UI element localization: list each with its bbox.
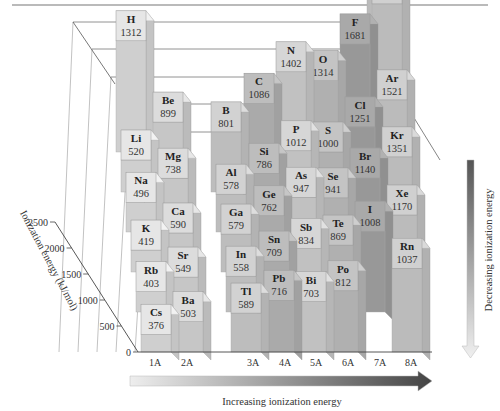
element-symbol: Kr — [390, 129, 404, 141]
element-symbol: P — [293, 123, 300, 135]
increasing-arrow: Increasing ionization energy — [130, 371, 432, 407]
bar-side — [358, 261, 366, 360]
bar-side — [203, 292, 211, 360]
element-symbol: Ga — [229, 206, 244, 218]
element-symbol: Rb — [144, 264, 158, 276]
element-symbol: Pb — [273, 272, 286, 284]
element-value: 1521 — [382, 86, 403, 97]
element-symbol: Cl — [355, 99, 366, 111]
group-label-3A: 3A — [247, 357, 260, 368]
horizontal-arrow-label: Increasing ionization energy — [222, 396, 342, 407]
element-value: 1312 — [121, 27, 142, 38]
element-symbol: As — [295, 169, 308, 181]
element-symbol: Te — [332, 217, 343, 229]
group-label-4A: 4A — [279, 357, 292, 368]
bar-Pb: Pb716 — [264, 270, 302, 360]
element-symbol: Be — [162, 94, 174, 106]
vertical-arrow-label: Decreasing ionization energy — [483, 188, 494, 312]
element-symbol: Bi — [306, 274, 316, 286]
z-tick-label: 500 — [99, 321, 114, 332]
element-symbol: Al — [226, 166, 237, 178]
element-value: 812 — [335, 277, 351, 288]
element-value: 1037 — [397, 254, 418, 265]
element-symbol: Sn — [268, 233, 280, 245]
bar-column — [231, 313, 261, 352]
decreasing-arrow: Decreasing ionization energy — [462, 160, 494, 358]
element-value: 503 — [180, 308, 196, 319]
element-value: 419 — [138, 236, 154, 247]
bar-side — [326, 272, 334, 360]
element-value: 496 — [133, 188, 149, 199]
bar-side — [294, 270, 302, 360]
element-value: 786 — [256, 159, 272, 170]
element-symbol: F — [352, 16, 359, 28]
element-value: 1012 — [286, 137, 307, 148]
bars-layer: He2372H1312Ne2081F1681O1314N1402C1086B80… — [116, 0, 430, 360]
element-symbol: Si — [259, 145, 268, 157]
element-value: 579 — [228, 220, 244, 231]
bar-side — [261, 283, 269, 360]
element-symbol: Se — [328, 170, 339, 182]
element-value: 716 — [271, 286, 287, 297]
element-value: 1086 — [249, 89, 270, 100]
element-symbol: Mg — [165, 150, 181, 162]
element-value: 376 — [148, 320, 164, 331]
chart-svg: He2372H1312Ne2081F1681O1314N1402C1086B80… — [0, 0, 500, 411]
element-value: 1251 — [350, 113, 371, 124]
element-symbol: Ba — [182, 294, 195, 306]
element-value: 1351 — [387, 143, 408, 154]
element-value: 589 — [238, 299, 254, 310]
element-symbol: Ge — [262, 188, 276, 200]
element-value: 941 — [325, 184, 341, 195]
element-value: 869 — [330, 231, 346, 242]
z-tick-label: 0 — [126, 347, 131, 358]
x-axis: 1A2A3A4A5A6A7A8A — [138, 352, 432, 368]
element-symbol: Br — [359, 150, 371, 162]
element-symbol: Cs — [150, 306, 163, 318]
element-symbol: I — [368, 203, 372, 215]
element-value: 709 — [266, 247, 282, 258]
element-value: 403 — [143, 278, 159, 289]
ionization-energy-chart: He2372H1312Ne2081F1681O1314N1402C1086B80… — [0, 0, 500, 411]
gridline-vertical — [97, 77, 111, 352]
element-symbol: Ar — [386, 72, 399, 84]
frame-diagonal — [73, 22, 115, 84]
bar-Rn: Rn1037 — [392, 238, 430, 360]
element-value: 578 — [223, 180, 239, 191]
element-value: 1681 — [345, 30, 366, 41]
element-value: 801 — [218, 118, 234, 129]
element-value: 1170 — [392, 201, 413, 212]
group-label-5A: 5A — [310, 357, 323, 368]
element-symbol: Po — [337, 263, 350, 275]
element-symbol: Xe — [396, 187, 409, 199]
horizontal-gradient-arrow-icon — [130, 371, 432, 391]
element-symbol: O — [319, 53, 328, 65]
element-symbol: Tl — [241, 285, 251, 297]
element-value: 947 — [293, 183, 309, 194]
element-value: 2081 — [377, 0, 398, 1]
element-value: 762 — [261, 202, 277, 213]
element-symbol: H — [127, 13, 136, 25]
element-symbol: B — [222, 104, 230, 116]
element-symbol: Na — [134, 174, 148, 186]
element-value: 1000 — [318, 138, 339, 149]
bar-column — [392, 268, 422, 352]
element-value: 549 — [175, 263, 191, 274]
bar-column — [141, 334, 171, 352]
element-value: 558 — [233, 262, 249, 273]
bar-side — [422, 238, 430, 360]
element-value: 703 — [303, 288, 319, 299]
element-symbol: Sb — [300, 221, 312, 233]
group-label-2A: 2A — [181, 357, 194, 368]
element-value: 1008 — [360, 217, 381, 228]
element-value: 1140 — [355, 164, 376, 175]
element-value: 738 — [165, 164, 181, 175]
element-symbol: K — [142, 222, 151, 234]
element-value: 1314 — [313, 67, 335, 78]
group-label-8A: 8A — [405, 357, 418, 368]
group-label-6A: 6A — [342, 357, 355, 368]
element-value: 520 — [128, 146, 144, 157]
element-value: 1402 — [281, 58, 302, 69]
element-symbol: Rn — [400, 240, 414, 252]
bar-Tl: Tl589 — [231, 283, 269, 360]
